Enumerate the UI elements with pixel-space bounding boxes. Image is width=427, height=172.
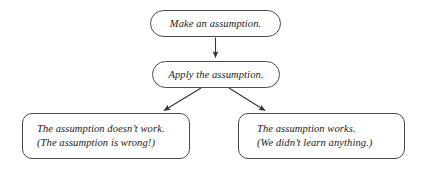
node-assumption-works-line1: The assumption works. — [257, 122, 356, 137]
edge-apply-to-succeed — [229, 88, 265, 111]
node-make-assumption: Make an assumption. — [150, 10, 281, 37]
node-assumption-works-line2: (We didn’t learn anything.) — [257, 136, 372, 151]
node-assumption-fails-line1: The assumption doesn’t work. — [37, 122, 165, 137]
node-apply-assumption: Apply the assumption. — [152, 61, 280, 88]
edge-apply-to-fail — [164, 88, 201, 111]
node-make-assumption-text: Make an assumption. — [170, 18, 261, 30]
node-assumption-works: The assumption works. (We didn’t learn a… — [238, 113, 405, 159]
diagram-canvas: Make an assumption. Apply the assumption… — [0, 0, 427, 172]
node-assumption-fails: The assumption doesn’t work. (The assump… — [22, 113, 190, 159]
node-apply-assumption-text: Apply the assumption. — [168, 69, 263, 81]
node-assumption-fails-line2: (The assumption is wrong!) — [37, 136, 155, 151]
